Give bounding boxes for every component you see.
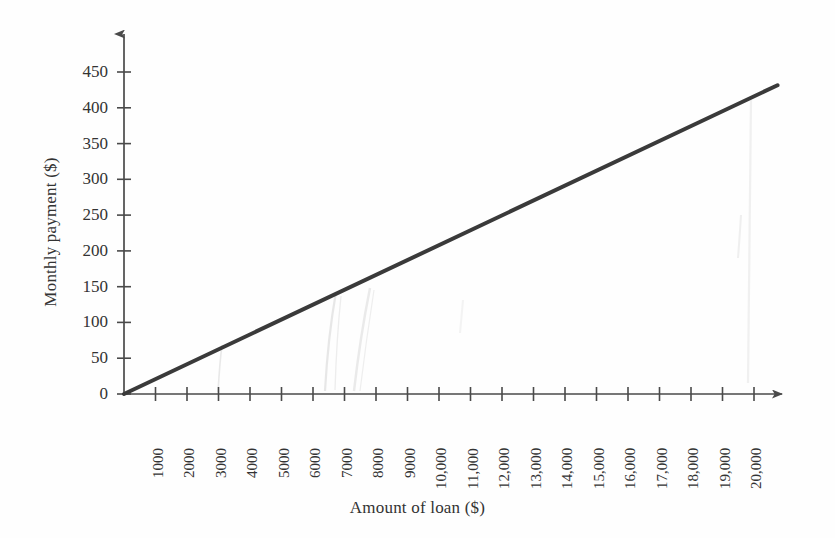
chart-figure: Monthly payment ($) Amount of loan ($) 0… <box>0 0 835 538</box>
x-tick-label: 11,000 <box>465 448 482 489</box>
x-tick-label: 10,000 <box>433 448 450 489</box>
plot-area: Monthly payment ($) Amount of loan ($) 0… <box>0 0 835 538</box>
x-tick-label: 14,000 <box>559 448 576 489</box>
x-tick-label: 4000 <box>244 448 261 478</box>
y-tick-label: 450 <box>46 62 108 82</box>
x-tick-label: 6000 <box>307 448 324 478</box>
x-tick-label: 8000 <box>370 448 387 478</box>
y-tick-label: 200 <box>46 241 108 261</box>
y-tick-label: 50 <box>46 348 108 368</box>
x-tick-label: 18,000 <box>685 448 702 489</box>
x-tick-label: 7000 <box>339 448 356 478</box>
x-tick-label: 12,000 <box>496 448 513 489</box>
scan-artifacts <box>218 100 751 392</box>
x-tick-label: 9000 <box>402 448 419 478</box>
x-axis-title: Amount of loan ($) <box>0 498 835 518</box>
x-tick-label: 17,000 <box>654 448 671 489</box>
x-tick-label: 1000 <box>150 448 167 478</box>
x-tick-label: 15,000 <box>591 448 608 489</box>
x-tick-label: 16,000 <box>622 448 639 489</box>
y-tick-label: 400 <box>46 98 108 118</box>
y-tick-label: 0 <box>46 384 108 404</box>
y-tick-label: 350 <box>46 134 108 154</box>
y-tick-label: 100 <box>46 312 108 332</box>
x-tick-label: 13,000 <box>528 448 545 489</box>
x-tick-label: 19,000 <box>717 448 734 489</box>
x-tick-label: 20,000 <box>748 448 765 489</box>
data-series-line <box>124 85 778 394</box>
x-tick-label: 2000 <box>181 448 198 478</box>
y-tick-label: 150 <box>46 277 108 297</box>
x-tick-label: 3000 <box>213 448 230 478</box>
y-tick-label: 300 <box>46 169 108 189</box>
x-tick-label: 5000 <box>276 448 293 478</box>
y-tick-label: 250 <box>46 205 108 225</box>
